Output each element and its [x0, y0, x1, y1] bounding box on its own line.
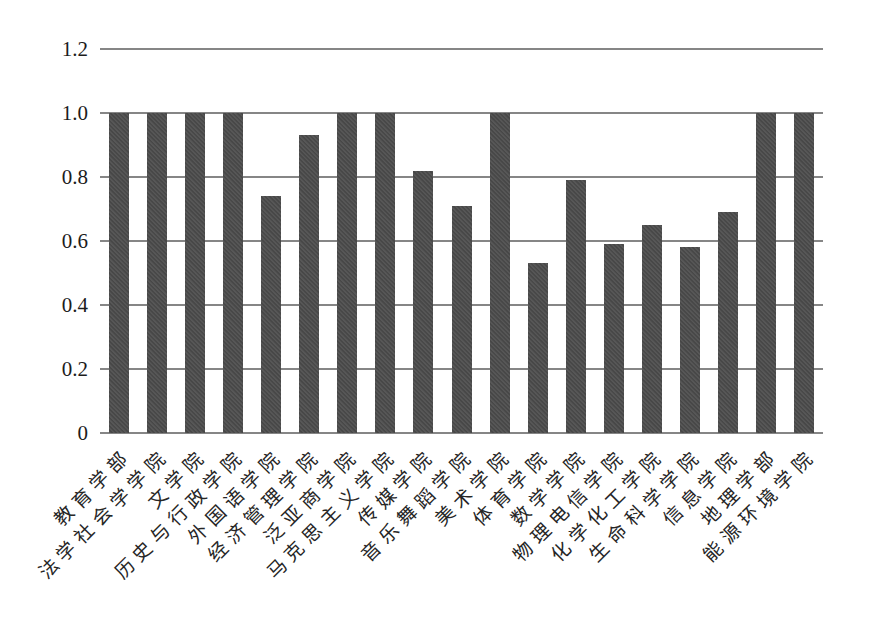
y-tick-label: 0.4 [28, 292, 88, 318]
gridline [100, 48, 823, 50]
bar-9 [413, 171, 433, 433]
bar-6 [299, 135, 319, 433]
bar-11 [490, 113, 510, 433]
bar-16 [680, 247, 700, 433]
y-tick-label: 1.0 [28, 100, 88, 126]
bar-3 [185, 113, 205, 433]
bar-chart: 00.20.40.60.81.01.2教育学部法学社会学学院文学院历史与行政学院… [0, 0, 872, 630]
bar-7 [337, 113, 357, 433]
gridline [100, 176, 823, 178]
y-tick-label: 0 [28, 420, 88, 446]
bar-13 [566, 180, 586, 433]
y-tick-label: 0.8 [28, 164, 88, 190]
bar-1 [109, 113, 129, 433]
y-tick-label: 0.6 [28, 228, 88, 254]
gridline [100, 112, 823, 114]
plot-area [100, 49, 823, 433]
bar-2 [147, 113, 167, 433]
bar-8 [375, 113, 395, 433]
bar-19 [794, 113, 814, 433]
bar-18 [756, 113, 776, 433]
bar-5 [261, 196, 281, 433]
bar-4 [223, 113, 243, 433]
bar-15 [642, 225, 662, 433]
bar-14 [604, 244, 624, 433]
y-tick-label: 1.2 [28, 36, 88, 62]
bar-10 [452, 206, 472, 433]
y-tick-label: 0.2 [28, 356, 88, 382]
bar-12 [528, 263, 548, 433]
bar-17 [718, 212, 738, 433]
